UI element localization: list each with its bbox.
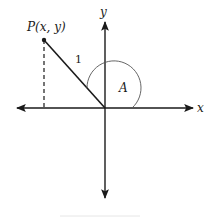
x-axis-label: x bbox=[197, 101, 204, 115]
radius-segment bbox=[44, 40, 105, 108]
angle-arc bbox=[87, 61, 141, 108]
radius-label: 1 bbox=[75, 53, 82, 66]
angle-label: A bbox=[118, 81, 128, 95]
point-p bbox=[42, 38, 46, 42]
unit-circle-diagram: P(x, y) 1 A x y bbox=[0, 0, 214, 218]
y-axis-label: y bbox=[99, 5, 107, 19]
point-label: P(x, y) bbox=[26, 20, 66, 34]
